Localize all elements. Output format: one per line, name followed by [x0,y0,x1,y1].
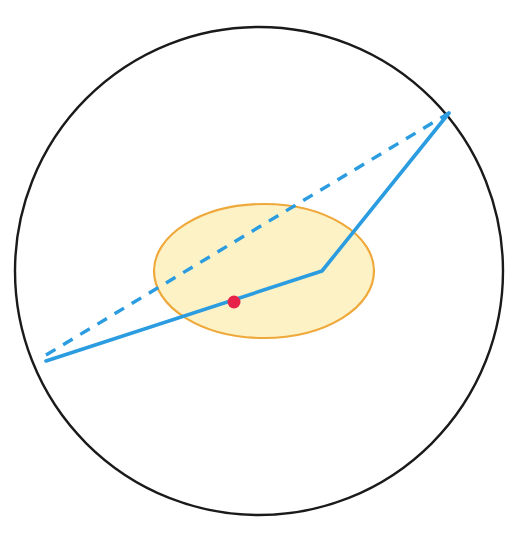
marked-point-red-dot [228,296,241,309]
figure-canvas [0,0,522,536]
figure-caption [0,518,522,536]
geometry-diagram [0,0,522,536]
